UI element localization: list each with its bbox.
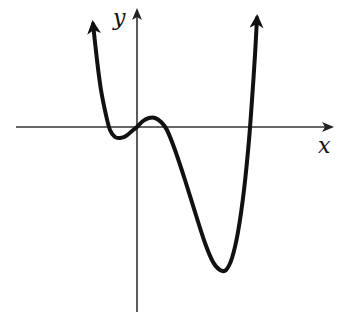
- polynomial-curve: [93, 18, 257, 271]
- y-axis-label: y: [112, 5, 126, 30]
- x-axis-label: x: [318, 133, 331, 158]
- graph-canvas: y x: [0, 0, 342, 315]
